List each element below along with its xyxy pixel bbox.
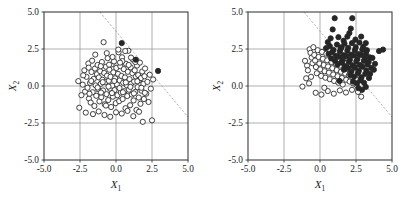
data-point-open — [113, 110, 118, 115]
y-tick-label: 5.0 — [231, 7, 243, 17]
x-tick-label: 0.0 — [314, 164, 326, 174]
data-point-open — [149, 118, 154, 123]
data-point-open — [83, 110, 88, 115]
data-point-filled — [359, 34, 364, 39]
data-point-open — [142, 66, 147, 71]
y-tick-label: -5.0 — [24, 155, 39, 165]
x-tick-label: -2.5 — [73, 164, 88, 174]
data-point-open — [147, 72, 152, 77]
scatter-panel-right: -5.0-2.50.02.55.0-5.0-2.50.02.55.0X1X2 — [204, 0, 408, 209]
data-point-open — [313, 90, 318, 95]
data-point-filled — [332, 16, 337, 21]
data-point-open — [96, 109, 101, 114]
data-point-open — [128, 84, 133, 89]
data-point-open — [104, 92, 109, 97]
y-tick-label: 0.0 — [27, 81, 39, 91]
data-point-open — [125, 108, 130, 113]
data-point-open — [77, 105, 82, 110]
data-point-open — [106, 62, 111, 67]
data-point-open — [98, 64, 103, 69]
data-point-open — [90, 112, 95, 117]
y-tick-label: 2.5 — [27, 44, 39, 54]
data-point-filled — [371, 67, 376, 72]
data-point-open — [306, 81, 311, 86]
data-point-open — [128, 103, 133, 108]
data-point-open — [139, 85, 144, 90]
data-point-filled — [119, 40, 124, 45]
data-point-open — [135, 79, 140, 84]
x-tick-label: 5.0 — [182, 164, 194, 174]
data-point-open — [86, 65, 91, 70]
y-tick-label: -2.5 — [24, 118, 39, 128]
data-point-open — [304, 76, 309, 81]
y-tick-label: -2.5 — [228, 118, 243, 128]
data-point-open — [93, 52, 98, 57]
data-point-filled — [376, 48, 381, 53]
data-point-filled — [336, 35, 341, 40]
y-tick-label: 2.5 — [231, 44, 243, 54]
data-point-filled — [337, 78, 342, 83]
data-point-open — [79, 93, 84, 98]
data-point-filled — [339, 45, 344, 50]
data-point-open — [136, 109, 141, 114]
data-point-open — [142, 74, 147, 79]
axis-ticks: -5.0-2.50.02.55.0-5.0-2.50.02.55.0 — [228, 7, 398, 173]
data-point-filled — [330, 27, 335, 32]
data-point-open — [120, 90, 125, 95]
data-point-open — [349, 87, 354, 92]
data-point-open — [104, 51, 109, 56]
data-point-open — [337, 88, 342, 93]
data-point-open — [145, 79, 150, 84]
data-point-open — [105, 56, 110, 61]
y-axis-title: X2 — [210, 80, 225, 92]
data-point-open — [123, 48, 128, 53]
data-point-open — [136, 95, 141, 100]
scatter-series-class-0 — [76, 40, 156, 125]
scatter-panel-left: -5.0-2.50.02.55.0-5.0-2.50.02.55.0X1X2 — [0, 0, 204, 209]
data-point-open — [92, 103, 97, 108]
data-point-open — [119, 111, 124, 116]
x-axis-title: X1 — [110, 178, 122, 193]
data-point-open — [109, 91, 114, 96]
data-point-filled — [155, 68, 160, 73]
data-point-open — [90, 58, 95, 63]
y-tick-label: 5.0 — [27, 7, 39, 17]
figure-container: -5.0-2.50.02.55.0-5.0-2.50.02.55.0X1X2 -… — [0, 0, 408, 209]
data-point-open — [123, 80, 128, 85]
data-point-open — [112, 78, 117, 83]
data-point-filled — [372, 61, 377, 66]
data-point-open — [103, 103, 108, 108]
data-point-open — [131, 98, 136, 103]
data-point-open — [110, 54, 115, 59]
data-point-open — [131, 114, 136, 119]
data-point-open — [126, 62, 131, 67]
data-point-open — [101, 40, 106, 45]
data-point-open — [85, 85, 90, 90]
data-point-open — [343, 90, 348, 95]
data-point-open — [359, 94, 364, 99]
data-point-open — [106, 97, 111, 102]
data-point-open — [302, 58, 307, 63]
x-tick-label: 5.0 — [386, 164, 398, 174]
y-tick-label: 0.0 — [231, 81, 243, 91]
data-point-filled — [133, 57, 138, 62]
data-point-open — [106, 84, 111, 89]
data-point-open — [102, 112, 107, 117]
x-tick-label: 2.5 — [146, 164, 158, 174]
data-point-filled — [350, 16, 355, 21]
data-point-open — [146, 99, 151, 104]
x-tick-label: 0.0 — [110, 164, 122, 174]
data-point-open — [117, 60, 122, 65]
data-point-open — [308, 74, 313, 79]
x-tick-label: 2.5 — [350, 164, 362, 174]
x-axis-title: X1 — [314, 178, 326, 193]
data-point-open — [151, 77, 156, 82]
data-point-open — [81, 73, 86, 78]
y-tick-label: -5.0 — [228, 155, 243, 165]
data-point-open — [305, 68, 310, 73]
data-point-open — [131, 91, 136, 96]
data-point-open — [98, 90, 103, 95]
data-point-open — [95, 85, 100, 90]
data-point-filled — [366, 75, 371, 80]
data-point-open — [94, 93, 99, 98]
